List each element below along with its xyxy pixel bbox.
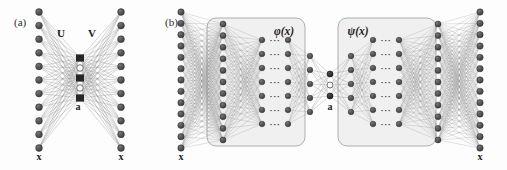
decoder-ellipsis: ··· xyxy=(381,105,392,115)
decoder-hidden-node xyxy=(435,125,441,131)
decoder-hidden-node xyxy=(435,114,441,120)
decoder-hidden-node xyxy=(435,102,441,108)
encoder-hidden-node xyxy=(259,65,265,71)
panel-b-input-label: x xyxy=(179,151,184,162)
panel-b-output-node xyxy=(477,122,483,128)
encoder-ellipsis: ··· xyxy=(270,91,281,101)
decoder-ellipsis: ··· xyxy=(381,77,392,87)
encoder-hidden-node xyxy=(259,37,265,43)
panel-b-input-node xyxy=(178,20,184,26)
decoder-hidden-node xyxy=(348,95,354,101)
decoder-hidden-node xyxy=(348,53,354,59)
encoder-hidden-node xyxy=(259,51,265,57)
decoder-hidden-node xyxy=(396,65,402,71)
panel-b-input-node xyxy=(178,133,184,139)
panel-a-bottleneck-node-light xyxy=(77,85,84,92)
panel-a-input-node xyxy=(36,117,43,124)
decoder-hidden-node xyxy=(396,51,402,57)
encoder-hidden-node xyxy=(307,81,313,87)
panel-b-output-node xyxy=(477,65,483,71)
encoder-hidden-node xyxy=(220,102,226,108)
encoder-hidden-node xyxy=(220,137,226,143)
panel-a-input-node xyxy=(36,90,43,97)
encoder-hidden-node xyxy=(285,121,291,127)
encoder-hidden-node xyxy=(285,37,291,43)
panel-b-output-node xyxy=(477,133,483,139)
encoder-hidden-node xyxy=(259,107,265,113)
panel-a-output-node xyxy=(118,117,125,124)
panel-b-input-node xyxy=(178,43,184,49)
panel-b-output-node xyxy=(477,31,483,37)
panel-b-output-node xyxy=(477,43,483,49)
panel-a-code-label: a xyxy=(76,101,81,112)
decoder-hidden-node xyxy=(435,44,441,50)
encoder-hidden-node xyxy=(220,91,226,97)
panel-b-input-node xyxy=(178,88,184,94)
panel-a-output-label: x xyxy=(119,151,124,162)
encoder-hidden-node xyxy=(285,79,291,85)
panel-a-output-node xyxy=(118,104,125,111)
panel-b-label: (b) xyxy=(165,16,178,29)
decoder-ellipsis: ··· xyxy=(381,63,392,73)
encoder-hidden-node xyxy=(259,79,265,85)
panel-b-output-node xyxy=(477,111,483,117)
panel-a-bottleneck-node-dark xyxy=(76,74,84,81)
panel-a-output-node xyxy=(118,77,125,84)
decoder-hidden-node xyxy=(396,79,402,85)
panel-a-input-node xyxy=(36,131,43,138)
panel-b-input-node xyxy=(178,99,184,105)
decoder-hidden-node xyxy=(370,93,376,99)
decoder-hidden-node xyxy=(348,81,354,87)
panel-b-input-node xyxy=(178,9,184,15)
decoder-hidden-node xyxy=(435,33,441,39)
panel-a-bottleneck-node-dark xyxy=(76,54,84,61)
panel-b-output-node xyxy=(477,88,483,94)
decoder-hidden-node xyxy=(435,56,441,62)
panel-b-input-node xyxy=(178,111,184,117)
encoder-hidden-node xyxy=(220,44,226,50)
decoder-hidden-node xyxy=(435,79,441,85)
encoder-hidden-node xyxy=(307,67,313,73)
panel-a-input-node xyxy=(36,63,43,70)
encoder-hidden-node xyxy=(220,56,226,62)
panel-a-output-node xyxy=(118,63,125,70)
decoder-hidden-node xyxy=(370,37,376,43)
encoder-hidden-node xyxy=(220,79,226,85)
panel-a-input-node xyxy=(36,9,43,16)
decoder-ellipsis: ··· xyxy=(381,35,392,45)
encoder-hidden-node xyxy=(259,93,265,99)
decoder-hidden-node xyxy=(348,109,354,115)
panel-a-output-node xyxy=(118,22,125,29)
panel-b-input-node xyxy=(178,122,184,128)
encoder-hidden-node xyxy=(220,114,226,120)
encoder-hidden-node xyxy=(285,107,291,113)
panel-b-input-node xyxy=(178,31,184,37)
panel-b-bottleneck-node-dark xyxy=(327,71,333,77)
encoder-ellipsis: ··· xyxy=(270,119,281,129)
decoder-weight-label-v: V xyxy=(88,27,96,39)
encoder-hidden-node xyxy=(307,53,313,59)
encoder-weight-label-u: U xyxy=(57,27,65,39)
encoder-hidden-node xyxy=(220,125,226,131)
panel-b-bottleneck-node-dark xyxy=(327,93,333,99)
encoder-hidden-node xyxy=(220,67,226,73)
encoder-hidden-node xyxy=(307,109,313,115)
panel-b-output-node xyxy=(477,9,483,15)
panel-a-bottleneck-node-light xyxy=(77,65,84,72)
panel-a-label: (a) xyxy=(14,16,27,29)
panel-a-output-node xyxy=(118,9,125,16)
decoder-ellipsis: ··· xyxy=(381,91,392,101)
panel-a-input-node xyxy=(36,49,43,56)
panel-b-input-node xyxy=(178,77,184,83)
decoder-hidden-node xyxy=(435,91,441,97)
decoder-hidden-node xyxy=(348,67,354,73)
panel-b-output-node xyxy=(477,77,483,83)
panel-b-input-node xyxy=(178,54,184,60)
decoder-hidden-node xyxy=(396,107,402,113)
panel-a-output-node xyxy=(118,36,125,43)
panel-a-input-node xyxy=(36,22,43,29)
decoder-function-label-psi: ψ(x) xyxy=(347,25,368,38)
encoder-hidden-node xyxy=(307,95,313,101)
panel-b-output-node xyxy=(477,99,483,105)
encoder-hidden-node xyxy=(220,21,226,27)
